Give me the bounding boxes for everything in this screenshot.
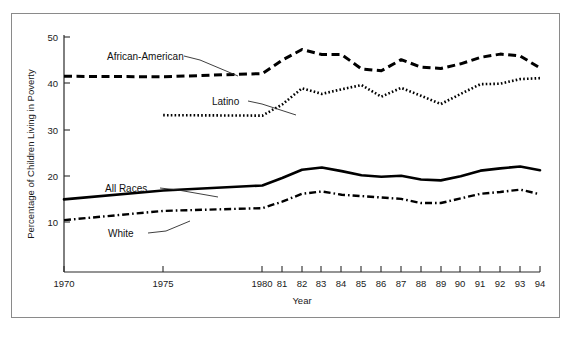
x-tick-label-1970: 1970 <box>53 278 74 289</box>
leader-white <box>148 221 190 233</box>
series-label-latino: Latino <box>212 96 240 107</box>
x-tick-label-90: 90 <box>455 278 466 289</box>
y-axis-title: Percentage of Children Living in Poverty <box>25 69 36 239</box>
x-tick-label-91: 91 <box>475 278 486 289</box>
x-tick-label-88: 88 <box>416 278 427 289</box>
x-tick-label-94: 94 <box>535 278 546 289</box>
y-tick-label-20: 20 <box>47 171 58 182</box>
x-tick-label-84: 84 <box>336 278 347 289</box>
series-label-white: White <box>108 228 134 239</box>
y-tick-label-30: 30 <box>47 125 58 136</box>
x-tick-label-81: 81 <box>277 278 288 289</box>
x-tick-label-1980: 1980 <box>251 278 272 289</box>
x-tick-label-93: 93 <box>515 278 526 289</box>
annotation-leaders <box>148 56 296 233</box>
x-tick-label-1975: 1975 <box>152 278 173 289</box>
y-tick-label-10: 10 <box>47 217 58 228</box>
leader-latino <box>248 101 296 115</box>
x-tick-label-89: 89 <box>436 278 447 289</box>
x-tick-label-92: 92 <box>495 278 506 289</box>
figure-container: 50 40 30 20 10 1970 1975 <box>0 0 576 337</box>
x-axis-title: Year <box>292 295 311 306</box>
leader-african-american <box>184 56 238 76</box>
x-tick-label-82: 82 <box>297 278 308 289</box>
series-label-african-american: African-American <box>107 51 184 62</box>
x-tick-label-85: 85 <box>356 278 367 289</box>
x-tick-label-83: 83 <box>316 278 327 289</box>
axes <box>64 35 540 272</box>
series-group <box>64 49 540 220</box>
series-label-all-races: All Races <box>105 183 147 194</box>
chart-canvas: 50 40 30 20 10 1970 1975 <box>0 0 576 337</box>
x-axis-ticks: 1970 1975 1980 81 82 83 84 85 86 87 88 8… <box>53 266 545 289</box>
x-tick-label-86: 86 <box>376 278 387 289</box>
y-tick-label-40: 40 <box>47 78 58 89</box>
x-tick-label-87: 87 <box>396 278 407 289</box>
y-tick-label-50: 50 <box>47 32 58 43</box>
